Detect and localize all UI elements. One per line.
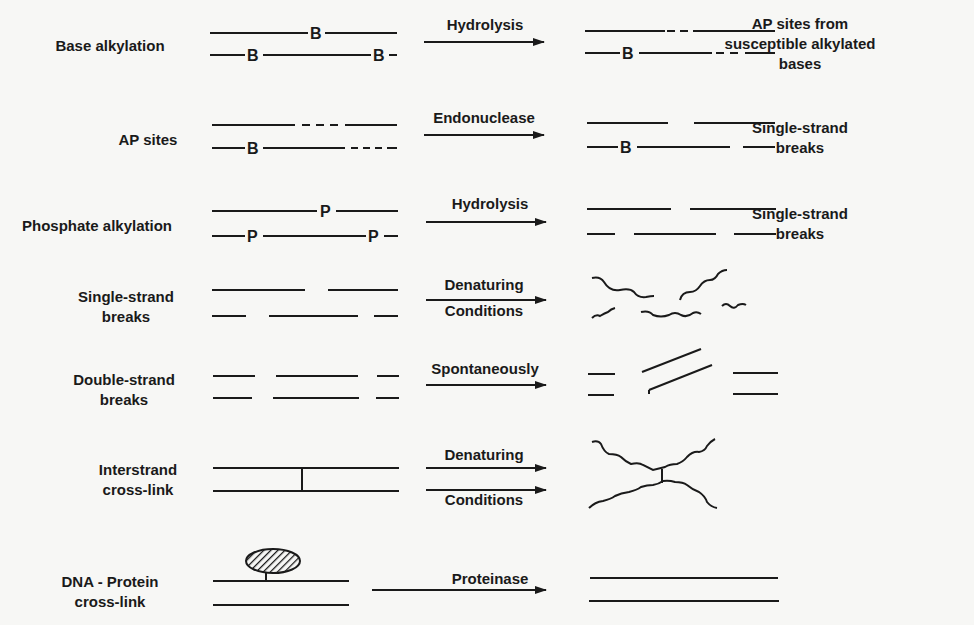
svg-text:B: B bbox=[620, 139, 632, 156]
dna-base-alkylated: B B B bbox=[210, 25, 397, 64]
arrow-icons bbox=[372, 42, 546, 590]
svg-text:B: B bbox=[622, 45, 634, 62]
svg-text:B: B bbox=[247, 140, 259, 157]
dna-damage-diagram: Base alkylation AP sites Phosphate alkyl… bbox=[0, 0, 974, 625]
dna-interstrand-cross-link bbox=[213, 468, 399, 491]
protein-blob-icon bbox=[246, 549, 300, 573]
svg-text:B: B bbox=[247, 47, 259, 64]
dna-double-strand-breaks bbox=[213, 376, 399, 398]
dna-cross-linked-denatured bbox=[589, 439, 717, 508]
dna-ssb-result-2 bbox=[587, 209, 776, 234]
dna-single-strand-breaks bbox=[212, 290, 398, 316]
svg-text:P: P bbox=[320, 203, 331, 220]
dna-ssb-result-1: B bbox=[587, 123, 775, 156]
svg-text:P: P bbox=[247, 228, 258, 245]
dna-intact-result bbox=[589, 578, 779, 601]
svg-text:P: P bbox=[368, 228, 379, 245]
svg-text:B: B bbox=[310, 25, 322, 42]
dna-ap-sites: B bbox=[212, 125, 397, 157]
dna-denatured-fragments bbox=[592, 270, 746, 318]
diagram-graphics: B B B B B bbox=[0, 0, 974, 625]
svg-text:B: B bbox=[373, 47, 385, 64]
dna-separated-fragments bbox=[588, 349, 778, 395]
dna-protein-cross-link bbox=[213, 549, 349, 605]
dna-phosphate-alkylated: P P P bbox=[212, 203, 398, 245]
dna-ap-sites-result: B bbox=[585, 31, 775, 62]
